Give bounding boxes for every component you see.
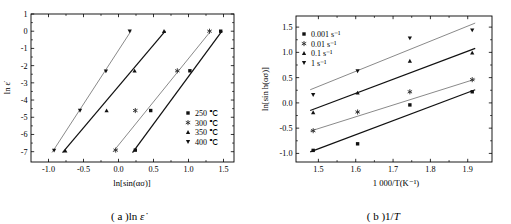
chart-a-svg: -1.0-0.50.00.51.01.510-1-2-3-4-5-6-7ln ε… xyxy=(0,0,256,224)
panel-a-caption-symbol: ε̇ xyxy=(140,210,144,222)
x-tick-label: 1.0 xyxy=(183,165,193,174)
panel-b-caption-body: 1/ xyxy=(385,210,394,222)
legend-marker-0 xyxy=(302,32,305,35)
panel-b-caption-prefix: ( b ) xyxy=(367,210,385,222)
chart-b-svg: 1.51.61.71.81.91.51.00.50.0-0.5-1.0ln[si… xyxy=(256,0,511,224)
legend-label-0: 0.001 s⁻¹ xyxy=(311,30,341,39)
x-tick-label: 0.5 xyxy=(148,165,158,174)
x-tick-label: 0.0 xyxy=(113,165,123,174)
legend-label-1: 0.01 s⁻¹ xyxy=(311,40,337,49)
legend: 250 ℃300 ℃350 ℃400 ℃ xyxy=(186,109,218,147)
data-point-s0-3 xyxy=(470,90,473,93)
y-axis-title: ln[sin h(ασ)] xyxy=(260,67,270,111)
legend-marker-3 xyxy=(186,140,190,144)
data-point-s0-2 xyxy=(408,103,411,106)
fit-line-2 xyxy=(63,31,166,153)
panel-b-caption: ( b )1/T xyxy=(256,210,511,222)
data-point-s3-2 xyxy=(407,37,411,41)
data-point-s1-2 xyxy=(407,89,411,94)
figure-container: -1.0-0.50.00.51.01.510-1-2-3-4-5-6-7ln ε… xyxy=(0,0,511,224)
y-tick-label: -0.5 xyxy=(279,124,292,133)
y-tick-label: 1.5 xyxy=(282,23,292,32)
data-point-s3-3 xyxy=(470,28,474,32)
y-tick-label: 1.0 xyxy=(282,48,292,57)
legend-marker-1 xyxy=(301,41,305,46)
fit-line-1 xyxy=(310,79,475,131)
y-tick-label: -2 xyxy=(21,62,28,71)
data-point-s0-3 xyxy=(219,30,222,33)
data-point-s2-1 xyxy=(104,108,108,112)
data-point-s1-1 xyxy=(355,109,359,114)
legend-label-2: 0.1 s⁻¹ xyxy=(311,49,333,58)
panel-b-caption-symbol: T xyxy=(394,210,400,222)
legend-marker-2 xyxy=(301,51,305,55)
data-point-s1-1 xyxy=(133,108,137,113)
y-axis-title: ln ε̇ xyxy=(2,81,12,94)
y-tick-label: 0.0 xyxy=(282,99,292,108)
x-axis-title: ln[sin(ασ)] xyxy=(113,178,150,188)
y-tick-label: -1 xyxy=(21,44,28,53)
data-point-s0-0 xyxy=(134,148,137,151)
panel-a-caption: ( a )ln ε̇ xyxy=(0,210,256,222)
legend-marker-1 xyxy=(186,120,190,125)
data-point-s0-2 xyxy=(188,69,191,72)
panel-a-caption-body: ln xyxy=(129,210,140,222)
data-point-s3-0 xyxy=(311,93,315,97)
x-tick-label: -0.5 xyxy=(77,165,90,174)
data-point-s0-0 xyxy=(311,149,314,152)
data-point-s2-2 xyxy=(407,59,411,63)
legend-label-3: 400 ℃ xyxy=(195,138,218,147)
x-tick-label: 1.5 xyxy=(313,165,323,174)
legend-label-3: 1 s⁻¹ xyxy=(311,59,327,68)
x-tick-label: 1.9 xyxy=(462,165,472,174)
x-tick-label: 1.8 xyxy=(425,165,435,174)
svg-text:ln[sin h(ασ)]: ln[sin h(ασ)] xyxy=(260,67,270,111)
data-point-s0-1 xyxy=(355,142,358,145)
x-axis-title: 1 000/T(K⁻¹) xyxy=(372,178,419,188)
x-tick-label: 1.5 xyxy=(218,165,228,174)
y-tick-label: -6 xyxy=(21,130,28,139)
y-tick-label: -1.0 xyxy=(279,149,292,158)
legend: 0.001 s⁻¹0.01 s⁻¹0.1 s⁻¹1 s⁻¹ xyxy=(301,30,340,68)
x-tick-label: 1.6 xyxy=(350,165,360,174)
legend-label-0: 250 ℃ xyxy=(195,109,218,118)
panel-a-caption-prefix: ( a ) xyxy=(111,210,129,222)
y-tick-label: -3 xyxy=(21,79,28,88)
y-tick-label: 0 xyxy=(23,27,27,36)
data-point-s0-1 xyxy=(149,109,152,112)
y-tick-label: 0.5 xyxy=(282,74,292,83)
svg-text:ln ε̇: ln ε̇ xyxy=(2,81,12,94)
y-tick-label: -5 xyxy=(21,113,28,122)
panel-a: -1.0-0.50.00.51.01.510-1-2-3-4-5-6-7ln ε… xyxy=(0,0,256,224)
x-tick-label: 1.7 xyxy=(387,165,397,174)
y-tick-label: 1 xyxy=(23,10,27,19)
data-point-s2-3 xyxy=(470,51,474,55)
legend-label-2: 350 ℃ xyxy=(195,128,218,137)
fit-line-0 xyxy=(310,90,475,152)
panel-b: 1.51.61.71.81.91.51.00.50.0-0.5-1.0ln[si… xyxy=(256,0,511,224)
legend-label-1: 300 ℃ xyxy=(195,119,218,128)
data-point-s2-0 xyxy=(311,110,315,114)
legend-marker-3 xyxy=(301,61,305,65)
y-tick-label: -4 xyxy=(21,96,28,105)
fit-line-3 xyxy=(52,31,131,153)
y-tick-label: -7 xyxy=(21,148,28,157)
legend-marker-0 xyxy=(186,111,189,114)
legend-marker-2 xyxy=(186,130,190,134)
x-tick-label: -1.0 xyxy=(42,165,55,174)
